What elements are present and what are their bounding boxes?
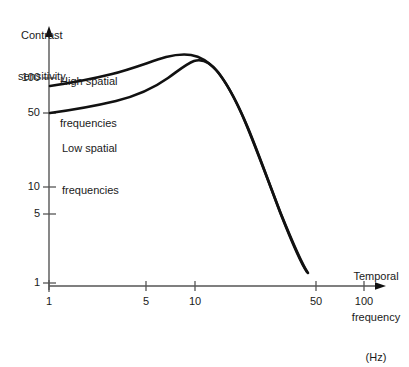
- y-tick-label-50: 50: [8, 106, 40, 119]
- y-axis-title: Contrast sensitivity: [18, 2, 66, 110]
- x-tick-label-50: 50: [304, 295, 328, 308]
- x-axis-title-line1: Temporal: [344, 270, 408, 284]
- y-tick-label-100: 100: [8, 71, 40, 84]
- x-axis-title-line2: frequency: [344, 311, 408, 325]
- annotation-low-line1: Low spatial: [62, 141, 119, 155]
- x-tick-label-5: 5: [134, 295, 158, 308]
- x-tick-label-1: 1: [37, 295, 61, 308]
- y-axis-title-line1: Contrast: [18, 29, 66, 43]
- y-tick-label-10: 10: [8, 180, 40, 193]
- x-axis: [49, 282, 386, 290]
- annotation-low-line2: frequencies: [62, 183, 119, 197]
- x-tick-label-100: 100: [352, 295, 376, 308]
- annotation-low-spatial-frequencies: Low spatial frequencies: [62, 113, 119, 225]
- y-tick-label-5: 5: [8, 207, 40, 220]
- x-axis-title-line3: (Hz): [344, 351, 408, 365]
- y-tick-label-1: 1: [8, 276, 40, 289]
- annotation-high-line1: High spatial: [60, 74, 117, 88]
- x-tick-label-10: 10: [183, 295, 207, 308]
